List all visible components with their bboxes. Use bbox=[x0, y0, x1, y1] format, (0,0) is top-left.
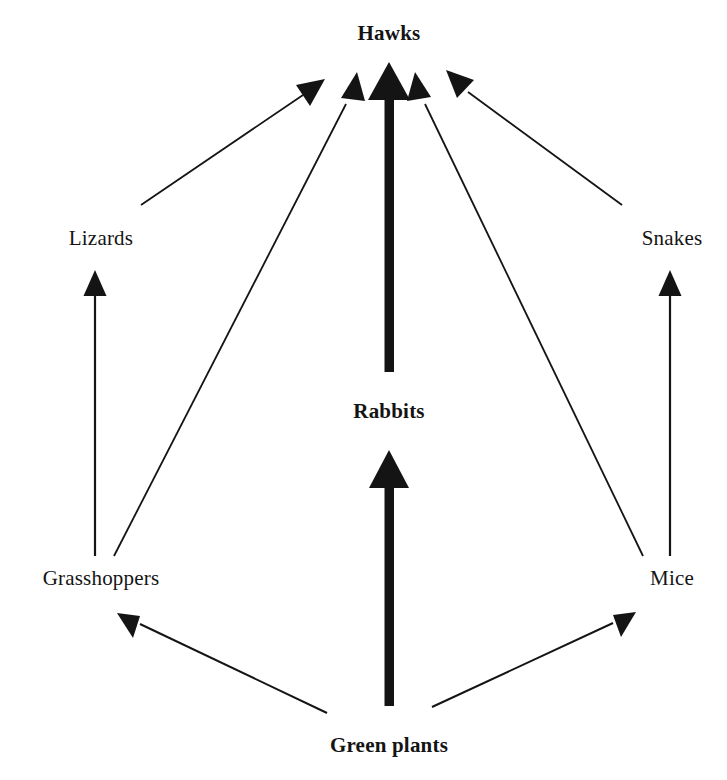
node-label-green-plants: Green plants bbox=[330, 735, 448, 756]
arrow-snakes-to-hawks bbox=[446, 70, 622, 205]
arrow-greenplants-to-rabbits bbox=[369, 450, 409, 706]
arrow-lizards-to-hawks bbox=[141, 79, 325, 205]
arrow-rabbits-to-hawks bbox=[368, 62, 410, 372]
food-web-diagram: Hawks Lizards Snakes Rabbits Grasshopper… bbox=[0, 0, 727, 780]
node-label-lizards: Lizards bbox=[69, 228, 133, 249]
arrow-grasshoppers-to-lizards bbox=[84, 270, 107, 556]
arrow-greenplants-to-mice bbox=[432, 612, 636, 707]
arrow-mice-to-hawks bbox=[407, 72, 643, 556]
node-label-hawks: Hawks bbox=[358, 23, 421, 44]
arrow-mice-to-snakes bbox=[659, 270, 682, 556]
arrow-layer bbox=[0, 0, 727, 780]
node-label-mice: Mice bbox=[650, 568, 694, 589]
arrow-greenplants-to-grasshoppers bbox=[117, 613, 327, 713]
node-label-grasshoppers: Grasshoppers bbox=[43, 568, 160, 589]
node-label-snakes: Snakes bbox=[642, 228, 703, 249]
node-label-rabbits: Rabbits bbox=[353, 401, 424, 422]
arrow-grasshoppers-to-hawks bbox=[114, 72, 365, 556]
